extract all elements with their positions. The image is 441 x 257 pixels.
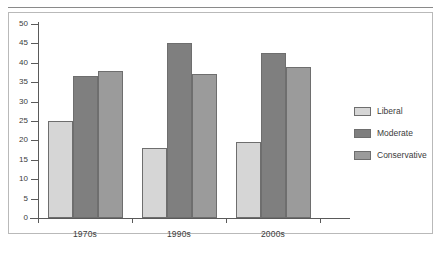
y-axis-tick-label: 5 [4,195,28,203]
y-axis-tick-label-text: 30 [6,98,28,106]
y-axis-tick [31,43,38,44]
y-axis-tick-label-text: 50 [6,20,28,28]
bar [286,67,311,218]
y-axis-tick-label: 35 [4,78,28,86]
y-axis-tick [31,24,38,25]
y-axis-tick-label: 10 [4,175,28,183]
y-axis-tick [31,218,38,219]
bar [142,148,167,218]
legend-swatch-icon [354,107,371,116]
x-axis-tick [320,218,321,223]
y-axis-tick-label-text: 10 [6,175,28,183]
x-axis-line [30,218,350,219]
y-axis-tick-label: 45 [4,39,28,47]
y-axis-tick-label-text: 45 [6,39,28,47]
y-axis-tick-label-text: 35 [6,78,28,86]
y-axis-tick-label: 15 [4,156,28,164]
y-axis-tick-label-text: 5 [6,195,28,203]
x-axis-category-label: 1990s [149,230,209,239]
x-axis-tick [132,218,133,223]
y-axis-tick-label: 30 [4,98,28,106]
y-axis-tick-label-text: 20 [6,136,28,144]
y-axis-tick-label-text: 25 [6,117,28,125]
y-axis-tick-label: 0 [4,214,28,222]
y-axis-tick [31,121,38,122]
bar-series-layer [38,24,320,218]
y-axis-tick [31,63,38,64]
y-axis-tick [31,199,38,200]
bar [73,76,98,218]
y-axis-tick-label: 20 [4,136,28,144]
y-axis-tick [31,140,38,141]
y-axis-tick-label-text: 0 [6,214,28,222]
legend-item-label: Conservative [377,151,427,160]
legend-item-label: Moderate [377,129,413,138]
bar [261,53,286,218]
bar [48,121,73,218]
y-axis-tick [31,102,38,103]
chart-legend: LiberalModerateConservative [354,100,436,166]
y-axis-tick-label: 40 [4,59,28,67]
legend-item-label: Liberal [377,107,403,116]
y-axis-tick-label-text: 15 [6,156,28,164]
x-axis-category-label: 1970s [55,230,115,239]
y-axis-tick-label: 25 [4,117,28,125]
x-axis-category-label: 2000s [243,230,303,239]
y-axis-tick-label-text: 40 [6,59,28,67]
legend-item: Conservative [354,144,436,166]
y-axis-tick [31,160,38,161]
bar [236,142,261,218]
y-axis-tick [31,179,38,180]
legend-swatch-icon [354,129,371,138]
x-axis-tick [38,218,39,223]
legend-item: Liberal [354,100,436,122]
y-axis-tick [31,82,38,83]
legend-swatch-icon [354,151,371,160]
bar [192,74,217,218]
top-horizontal-rule [8,7,433,8]
bar [167,43,192,218]
x-axis-tick [226,218,227,223]
legend-item: Moderate [354,122,436,144]
bar [98,71,123,218]
y-axis-tick-label: 50 [4,20,28,28]
